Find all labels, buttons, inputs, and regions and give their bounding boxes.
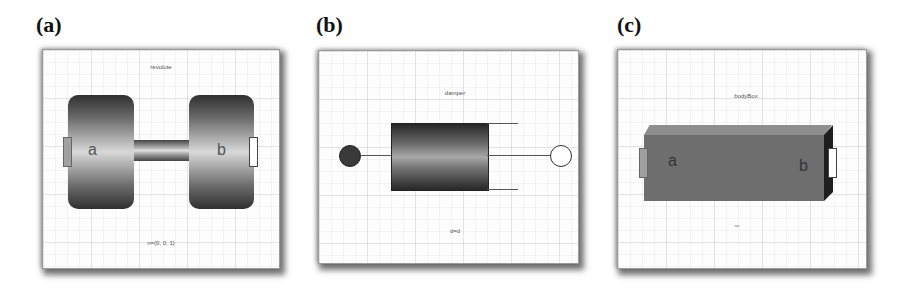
port-b-label: b (799, 158, 808, 174)
panel-damper: damper d=d (318, 50, 579, 264)
damper-cylinder (391, 123, 489, 191)
panel-bodybox: bodyBox a b r=r (617, 49, 867, 269)
panel-a-label: (a) (36, 14, 62, 36)
damper-top-rail (487, 123, 518, 124)
damper-parameter-label: d=d (450, 228, 460, 234)
revolute-left-cylinder (68, 95, 134, 209)
port-b-connector[interactable] (249, 137, 258, 167)
damper-right-rod (487, 155, 551, 156)
panel-b-label: (b) (316, 14, 343, 36)
port-b-connector[interactable] (828, 148, 837, 178)
bodybox-parameter-label: r=r (735, 223, 740, 228)
flange-b-icon[interactable] (550, 145, 572, 167)
bodybox-name-label: bodyBox (734, 93, 757, 99)
port-a-connector[interactable] (639, 148, 648, 178)
port-a-label: a (88, 142, 97, 158)
port-a-connector[interactable] (63, 137, 72, 167)
panel-c-label: (c) (617, 14, 641, 36)
panel-revolute: revolute a b n={0, 0, 1} (42, 49, 280, 269)
port-b-label: b (217, 142, 226, 158)
box-top-face (644, 125, 832, 135)
damper-bottom-rail (487, 189, 518, 190)
port-a-label: a (668, 153, 677, 169)
revolute-axis-label: n={0, 0, 1} (147, 240, 175, 246)
revolute-shaft (134, 140, 189, 161)
flange-a-icon[interactable] (339, 145, 361, 167)
damper-left-rod (360, 155, 391, 156)
revolute-name-label: revolute (150, 64, 171, 70)
damper-name-label: damper (445, 90, 465, 96)
